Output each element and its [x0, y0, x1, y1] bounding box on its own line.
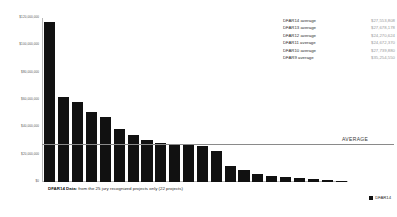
bar — [280, 177, 291, 182]
averages-table-value: $24,672,370 — [371, 41, 395, 45]
legend-swatch-icon — [369, 196, 373, 200]
legend-label: DFAR14 — [375, 196, 391, 200]
bar — [211, 151, 222, 182]
averages-table-label: DFAR9 average — [283, 56, 314, 60]
average-line-label: AVERAGE — [342, 137, 368, 142]
bar — [128, 135, 139, 182]
chart-legend: DFAR14 — [369, 196, 391, 200]
y-axis-tick-label: $120,000,000 — [19, 16, 39, 19]
bar — [141, 140, 152, 182]
chart-root: $0$20,000,000$40,000,000$60,000,000$80,0… — [0, 0, 397, 217]
bar — [252, 174, 263, 182]
averages-table-value: $27,553,808 — [371, 19, 395, 23]
bar — [155, 143, 166, 182]
bar — [336, 181, 347, 182]
bar — [169, 144, 180, 182]
bar — [197, 146, 208, 182]
y-axis-tick-label: $100,000,000 — [19, 44, 39, 47]
y-axis-tick-label: $60,000,000 — [21, 98, 39, 101]
bar — [266, 176, 277, 182]
averages-table-label: DFAR13 average — [283, 26, 316, 30]
averages-table-label: DFAR11 average — [283, 41, 316, 45]
averages-table-label: DFAR12 average — [283, 34, 316, 38]
averages-summary-table: DFAR14 average$27,553,808DFAR13 average$… — [283, 19, 395, 63]
bar — [225, 166, 236, 182]
bar — [183, 144, 194, 182]
bar — [72, 102, 83, 182]
y-axis-tick-label: $80,000,000 — [21, 71, 39, 74]
averages-table-value: $27,678,178 — [371, 26, 395, 30]
average-reference-line — [42, 144, 394, 145]
averages-table-label: DFAR10 average — [283, 49, 316, 53]
caption-strong: DFAR14 Data: — [48, 186, 77, 191]
bar — [308, 179, 319, 182]
averages-table-value: $24,270,624 — [371, 34, 395, 38]
averages-table-value: $35,254,550 — [371, 56, 395, 60]
chart-caption: DFAR14 Data: from the 25 jury recognized… — [48, 186, 183, 191]
bar — [114, 129, 125, 182]
averages-table-value: $27,739,880 — [371, 49, 395, 53]
y-axis-tick-label: $20,000,000 — [21, 153, 39, 156]
y-axis-labels: $0$20,000,000$40,000,000$60,000,000$80,0… — [0, 18, 41, 182]
averages-table-row: DFAR9 average$35,254,550 — [283, 56, 395, 63]
caption-rest: from the 25 jury recognized projects onl… — [77, 186, 183, 191]
bar — [294, 178, 305, 182]
bar — [58, 97, 69, 182]
bar — [100, 117, 111, 182]
averages-table-label: DFAR14 average — [283, 19, 316, 23]
bar — [44, 22, 55, 182]
bar — [322, 180, 333, 182]
y-axis-tick-label: $0 — [35, 180, 39, 183]
y-axis-tick-label: $40,000,000 — [21, 126, 39, 129]
bar — [86, 112, 97, 182]
bar — [238, 170, 249, 182]
